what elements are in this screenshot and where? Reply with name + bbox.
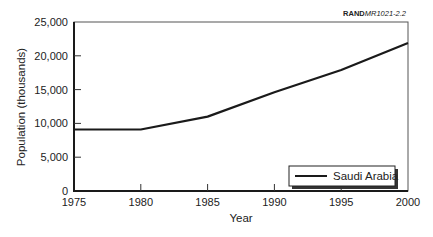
x-tick-label: 1995 bbox=[329, 196, 353, 208]
source-label-bold: RAND bbox=[343, 9, 365, 18]
source-label-italic: MR1021-2.2 bbox=[365, 9, 407, 18]
x-tick-label: 1980 bbox=[129, 196, 153, 208]
y-tick-label: 15,000 bbox=[34, 84, 68, 96]
y-tick-label: 20,000 bbox=[34, 50, 68, 62]
series-line-saudi-arabia bbox=[74, 43, 408, 130]
legend: Saudi Arabia bbox=[289, 166, 399, 189]
y-tick-label: 25,000 bbox=[34, 16, 68, 28]
legend-label: Saudi Arabia bbox=[333, 170, 399, 182]
series-lines bbox=[74, 43, 408, 130]
y-tick-label: 10,000 bbox=[34, 117, 68, 129]
y-tick-label: 5,000 bbox=[40, 151, 68, 163]
x-tick-label: 1975 bbox=[62, 196, 86, 208]
source-label: RANDMR1021-2.2 bbox=[343, 9, 407, 18]
x-axis-title: Year bbox=[229, 212, 252, 224]
x-tick-label: 1990 bbox=[262, 196, 286, 208]
x-tick-label: 1985 bbox=[195, 196, 219, 208]
x-tick-label: 2000 bbox=[396, 196, 420, 208]
population-line-chart: RANDMR1021-2.2 05,00010,00015,00020,0002… bbox=[0, 0, 433, 237]
y-axis-title: Population (thousands) bbox=[15, 48, 27, 166]
